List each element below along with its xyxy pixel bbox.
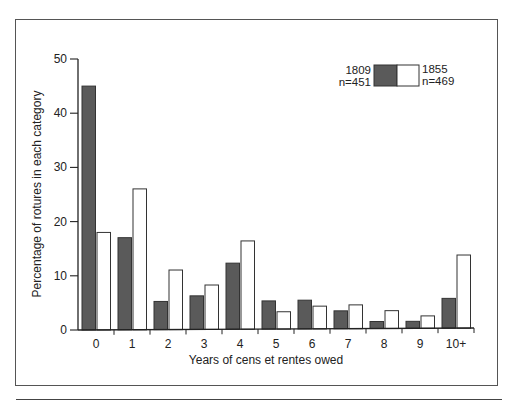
legend: 1809 n=451 1855 n=469	[339, 63, 455, 88]
x-tick-label: 5	[273, 337, 280, 351]
bar-1809-7	[334, 311, 348, 329]
x-axis-title: Years of cens et rentes owed	[189, 353, 343, 367]
x-tick-label: 9	[417, 337, 424, 351]
bar-1855-5	[277, 312, 291, 329]
bar-1809-0	[82, 86, 96, 330]
bar-1809-3	[190, 296, 204, 330]
bar-1809-9	[406, 321, 420, 328]
legend-1809-swatch	[374, 65, 397, 86]
legend-1809-year: 1809	[345, 64, 371, 76]
bar-1855-0	[97, 232, 111, 330]
x-tick-label: 4	[237, 337, 244, 351]
bar-1809-5	[262, 301, 276, 329]
bar-1809-4	[226, 263, 240, 329]
x-tick-label: 8	[381, 337, 388, 351]
y-tick-label: 40	[54, 106, 68, 120]
x-tick-label: 0	[93, 337, 100, 351]
x-tick-label: 3	[201, 337, 208, 351]
y-axis: 01020304050	[54, 52, 78, 337]
bar-1809-10+	[442, 298, 456, 328]
bar-1855-2	[169, 270, 183, 330]
bar-1855-4	[241, 241, 255, 329]
y-axis-title: Percentage of rotures in each category	[30, 91, 44, 298]
legend-1855-n: n=469	[422, 75, 454, 87]
x-tick-label: 1	[129, 337, 136, 351]
legend-1855-year: 1855	[422, 63, 448, 75]
legend-1809-n: n=451	[339, 76, 371, 88]
bar-1855-10+	[457, 255, 471, 328]
bar-1809-6	[298, 300, 312, 329]
x-tick-label: 2	[165, 337, 172, 351]
y-tick-label: 30	[54, 160, 68, 174]
bars	[82, 86, 471, 330]
legend-1855-swatch	[397, 65, 419, 86]
bar-1809-8	[370, 321, 384, 328]
bar-1855-8	[385, 311, 399, 329]
y-tick-label: 20	[54, 215, 68, 229]
bar-1809-2	[154, 301, 168, 329]
y-tick-label: 0	[60, 323, 67, 337]
bar-1855-7	[349, 305, 363, 329]
bar-1855-6	[313, 306, 327, 329]
bar-1809-1	[118, 238, 132, 330]
bar-chart: 01020304050 012345678910+ Percentage of …	[0, 0, 512, 403]
bar-1855-3	[205, 285, 219, 329]
x-tick-label: 7	[345, 337, 352, 351]
y-tick-label: 10	[54, 269, 68, 283]
bar-1855-9	[421, 316, 435, 328]
x-tick-label: 6	[309, 337, 316, 351]
y-tick-label: 50	[54, 52, 68, 66]
x-axis: 012345678910+	[78, 328, 474, 351]
x-tick-label: 10+	[446, 337, 466, 351]
bar-1855-1	[133, 189, 147, 330]
